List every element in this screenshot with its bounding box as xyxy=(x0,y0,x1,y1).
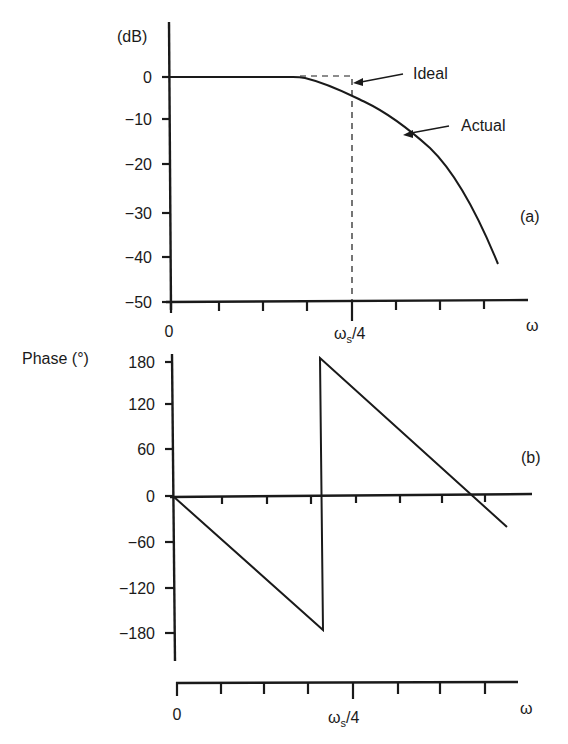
magnitude-omega-label: ω xyxy=(526,317,539,334)
svg-text:−60: −60 xyxy=(128,534,155,551)
magnitude-x-ticks xyxy=(171,300,484,321)
ideal-annotation: Ideal xyxy=(353,65,448,86)
phase-x-ws4-label: ωs/4 xyxy=(328,709,359,729)
svg-text:−50: −50 xyxy=(125,294,152,311)
phase-zero-axis xyxy=(170,494,532,497)
panel-b-label: (b) xyxy=(521,449,541,466)
magnitude-x-zero-label: 0 xyxy=(165,323,174,340)
actual-annotation: Actual xyxy=(403,117,505,138)
phase-plot: Phase (°) 180 120 60 0 −60 −120 −180 xyxy=(22,350,541,729)
magnitude-y-tick-labels: 0 −10 −20 −30 −40 −50 xyxy=(125,69,152,311)
phase-x-zero-label: 0 xyxy=(173,706,182,723)
panel-a-label: (a) xyxy=(520,208,540,225)
svg-text:Actual: Actual xyxy=(461,117,505,134)
svg-text:−40: −40 xyxy=(125,249,152,266)
svg-text:60: 60 xyxy=(137,441,155,458)
actual-response-curve xyxy=(170,77,498,264)
svg-text:0: 0 xyxy=(146,488,155,505)
phase-omega-label: ω xyxy=(520,700,533,717)
phase-y-tick-labels: 180 120 60 0 −60 −120 −180 xyxy=(119,354,155,642)
svg-text:−20: −20 xyxy=(125,156,152,173)
phase-y-axis xyxy=(172,354,175,661)
ideal-response-line xyxy=(300,76,352,300)
svg-text:−120: −120 xyxy=(119,580,155,597)
magnitude-x-axis xyxy=(166,300,528,302)
phase-frequency-ticks xyxy=(177,682,485,699)
svg-text:−30: −30 xyxy=(125,205,152,222)
svg-text:Ideal: Ideal xyxy=(413,65,448,82)
phase-axis-label: Phase (°) xyxy=(22,350,89,367)
svg-text:120: 120 xyxy=(128,396,155,413)
bode-figure: (dB) 0 −10 −20 −30 −40 −50 xyxy=(0,0,568,744)
svg-text:180: 180 xyxy=(128,354,155,371)
magnitude-plot: (dB) 0 −10 −20 −30 −40 −50 xyxy=(117,22,540,345)
magnitude-y-axis xyxy=(169,22,171,310)
db-axis-label: (dB) xyxy=(117,28,147,45)
phase-frequency-axis xyxy=(176,682,518,683)
magnitude-x-ws4-label: ωs/4 xyxy=(334,325,365,345)
svg-text:−10: −10 xyxy=(125,111,152,128)
svg-text:0: 0 xyxy=(143,69,152,86)
svg-text:−180: −180 xyxy=(119,625,155,642)
